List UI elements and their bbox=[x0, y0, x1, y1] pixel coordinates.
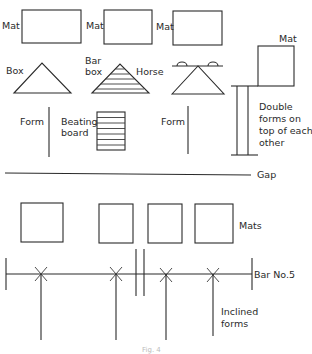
beating-board-label-line2: board bbox=[61, 127, 88, 138]
inclined-forms-label-line1: Inclined bbox=[221, 306, 258, 317]
figure-caption: Fig. 4 bbox=[142, 346, 161, 354]
double-forms-label-line2: forms on bbox=[259, 113, 301, 124]
inclined-form-2 bbox=[110, 267, 122, 340]
box: Box bbox=[6, 63, 71, 93]
inclined-form-1 bbox=[35, 267, 47, 340]
form-2-label: Form bbox=[161, 116, 185, 127]
inclined-forms-label-line2: forms bbox=[221, 318, 248, 329]
inclined-form-3 bbox=[160, 268, 172, 340]
form-2: Form bbox=[161, 106, 188, 154]
mat-3-label: Mat bbox=[156, 21, 174, 32]
beating-board-label-line1: Beating bbox=[61, 116, 98, 127]
inclined-forms: Inclined forms bbox=[35, 267, 258, 340]
bar-no-label: Bar No.5 bbox=[254, 269, 295, 280]
bar-box-label-line1: Bar bbox=[85, 55, 101, 66]
beating-board: Beating board bbox=[61, 112, 125, 150]
gap-line: Gap bbox=[5, 169, 276, 180]
box-label: Box bbox=[6, 65, 24, 76]
form-1: Form bbox=[20, 107, 49, 157]
mat-3: Mat bbox=[156, 11, 222, 45]
mat-4: Mat bbox=[258, 33, 297, 86]
mats-label: Mats bbox=[239, 220, 262, 231]
inclined-form-4 bbox=[207, 268, 219, 336]
mat-1-label: Mat bbox=[2, 20, 20, 31]
horse: Horse bbox=[136, 62, 224, 94]
mat-2: Mat bbox=[86, 10, 152, 44]
double-forms: Double forms on top of each other bbox=[231, 86, 312, 155]
gap-label: Gap bbox=[257, 169, 276, 180]
bar-box-label-line2: box bbox=[85, 66, 103, 77]
double-forms-label-line3: top of each bbox=[259, 125, 312, 136]
double-forms-label-line1: Double bbox=[259, 101, 293, 112]
horse-label: Horse bbox=[136, 66, 164, 77]
gym-apparatus-diagram: Mat Mat Mat Mat Box Bar box Horse bbox=[0, 0, 312, 354]
upright-posts bbox=[136, 249, 144, 296]
bar-no-5: Bar No.5 bbox=[6, 258, 295, 290]
mat-1: Mat bbox=[2, 10, 81, 43]
mat-2-label: Mat bbox=[86, 20, 104, 31]
bottom-mats: Mats bbox=[21, 203, 262, 243]
mat-4-label: Mat bbox=[279, 33, 297, 44]
double-forms-label-line4: other bbox=[259, 137, 284, 148]
form-1-label: Form bbox=[20, 116, 44, 127]
